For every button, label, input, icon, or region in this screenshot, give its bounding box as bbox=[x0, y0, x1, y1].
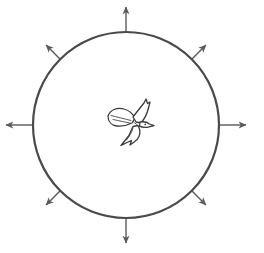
arrow-southeast bbox=[192, 191, 206, 205]
arrow-southeast-shaft bbox=[192, 191, 206, 205]
diagram-root: Circle with eight radiating arrows and c… bbox=[0, 0, 264, 253]
bird-logo bbox=[108, 99, 154, 146]
bird-head bbox=[140, 122, 155, 127]
bird-right-wing bbox=[133, 99, 150, 123]
arrow-northwest-shaft bbox=[46, 45, 60, 59]
arrow-southwest bbox=[46, 191, 60, 205]
bird-eye bbox=[144, 124, 146, 126]
arrow-northwest bbox=[46, 45, 60, 59]
arrow-northeast bbox=[192, 45, 206, 59]
bird-body-tail bbox=[121, 126, 140, 146]
arrow-southwest-shaft bbox=[46, 191, 60, 205]
arrow-northeast-shaft bbox=[192, 45, 206, 59]
bird-left-wing bbox=[108, 108, 135, 126]
radiating-circle-diagram bbox=[0, 0, 264, 253]
